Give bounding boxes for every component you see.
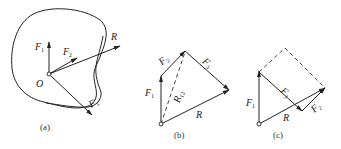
label-origin: O bbox=[36, 78, 43, 89]
caption-b: (b) bbox=[174, 130, 185, 140]
label-r: R bbox=[195, 109, 202, 120]
rigid-body-outline bbox=[12, 9, 107, 108]
caption-a: (a) bbox=[40, 122, 50, 132]
figure-b: F1 F2 F3 R12 R (b) bbox=[144, 51, 229, 140]
label-f1: F1 bbox=[34, 41, 44, 53]
label-f2: F2 bbox=[156, 53, 171, 69]
label-f3: F3 bbox=[199, 55, 214, 71]
label-r: R bbox=[110, 31, 117, 42]
label-f3: F3 bbox=[86, 96, 101, 111]
origin-point bbox=[159, 122, 163, 126]
vector-f3 bbox=[49, 74, 92, 115]
label-r12: R12 bbox=[171, 89, 186, 105]
label-f1: F1 bbox=[245, 97, 255, 109]
origin-point bbox=[257, 122, 261, 126]
vector-f2 bbox=[49, 58, 77, 74]
origin-point bbox=[47, 72, 51, 76]
figure-c: F1 F3 F2 R (c) bbox=[245, 48, 325, 140]
dashed-parallelogram-top-left bbox=[259, 48, 285, 72]
label-f2: F2 bbox=[62, 46, 72, 58]
dashed-parallelogram-top-right bbox=[285, 48, 325, 88]
vector-r bbox=[161, 90, 229, 124]
caption-c: (c) bbox=[273, 130, 283, 140]
label-f3: F3 bbox=[277, 84, 292, 100]
label-f1: F1 bbox=[144, 87, 154, 99]
force-diagram: F1 F2 R F3 O (a) F1 F2 F3 R12 R (b) F1 F… bbox=[0, 0, 341, 149]
figure-a: F1 F2 R F3 O (a) bbox=[12, 9, 120, 132]
label-r: R bbox=[282, 112, 289, 123]
vector-r bbox=[49, 46, 120, 74]
